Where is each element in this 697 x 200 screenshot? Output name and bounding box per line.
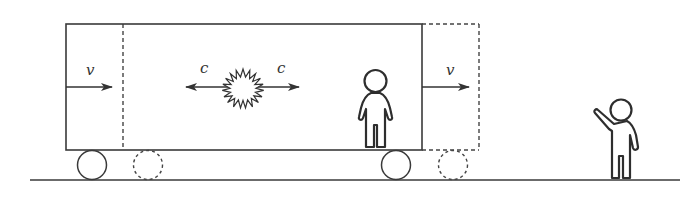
observer-on-ground-icon [594, 100, 638, 179]
velocity-arrow-left: v [66, 61, 112, 87]
wheel-icon [382, 151, 411, 180]
wheel-icon [78, 151, 107, 180]
light-label-left: c [200, 59, 209, 77]
wheel-displaced-icon [134, 151, 163, 180]
observer-in-car-icon [359, 70, 392, 147]
velocity-arrow-right: v [422, 61, 469, 87]
light-flash-starburst-icon [222, 69, 263, 108]
velocity-label-left: v [86, 61, 95, 79]
velocity-label-right: v [446, 61, 455, 79]
light-arrow-left: c [186, 59, 228, 87]
light-arrow-right: c [258, 59, 299, 87]
light-label-right: c [277, 59, 286, 77]
wheel-displaced-icon [439, 151, 468, 180]
diagram-canvas: v v c c [0, 0, 697, 200]
